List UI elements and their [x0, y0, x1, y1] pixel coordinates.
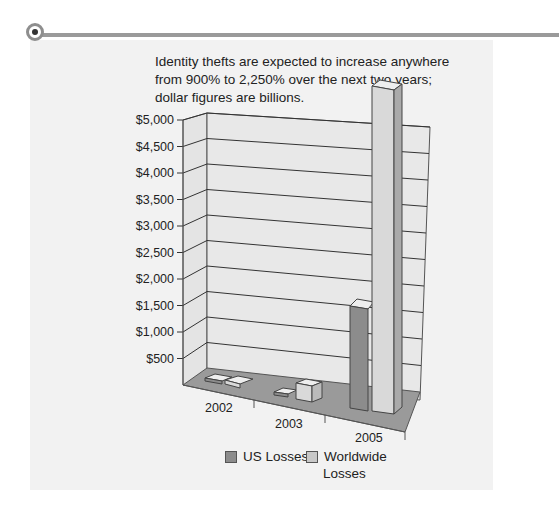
y-tick-label: $2,500 — [136, 246, 174, 260]
y-tick-label: $500 — [146, 352, 174, 366]
y-tick-label: $2,000 — [136, 272, 174, 286]
y-tick-label: $4,000 — [136, 166, 174, 180]
y-tick-label: $1,000 — [136, 325, 174, 339]
y-axis-ticks: $500$1,000$1,500$2,000$2,500$3,000$3,500… — [136, 113, 174, 366]
side-wall — [183, 113, 207, 385]
y-tick-label: $4,500 — [136, 140, 174, 154]
x-label-2003: 2003 — [275, 417, 303, 431]
y-tick-label: $5,000 — [136, 113, 174, 127]
legend-us: US Losses — [225, 448, 308, 465]
chart: $500$1,000$1,500$2,000$2,500$3,000$3,500… — [0, 0, 559, 517]
y-tick-label: $3,500 — [136, 193, 174, 207]
x-label-2005: 2005 — [355, 431, 383, 445]
y-tick-label: $3,000 — [136, 219, 174, 233]
legend-swatch-worldwide — [306, 451, 318, 463]
legend-worldwide: Worldwide Losses — [306, 448, 387, 482]
y-tick-label: $1,500 — [136, 299, 174, 313]
legend-swatch-us — [225, 451, 237, 463]
x-label-2002: 2002 — [205, 401, 233, 415]
